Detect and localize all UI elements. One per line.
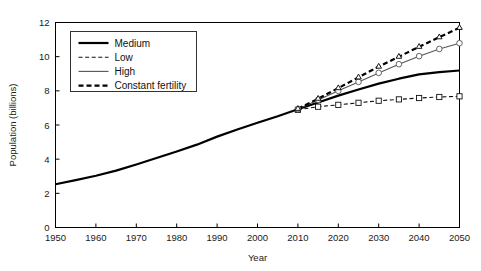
chart-legend: MediumLowHighConstant fertility [71,32,197,92]
legend-label-low: Low [115,52,134,63]
data-point-marker [336,85,342,90]
x-axis-title: Year [248,252,267,263]
y-tick-label: 8 [44,85,49,96]
data-point-marker [316,104,321,109]
marker-layer [295,25,462,113]
data-point-marker [396,61,402,67]
data-point-marker [336,102,341,107]
y-tick-label: 6 [44,120,49,131]
data-point-marker [376,63,382,68]
x-tick-label: 1980 [166,232,187,243]
data-point-marker [437,46,443,52]
x-axis-ticks [56,224,460,228]
data-point-marker [457,40,463,46]
data-point-marker [356,74,362,79]
x-tick-label: 2030 [368,232,389,243]
y-axis-title: Population (billions) [7,84,18,167]
population-projection-chart: 1950196019701980199020002010202020302040… [0,0,481,271]
data-point-marker [457,94,462,99]
x-tick-label: 2040 [409,232,430,243]
y-tick-label: 0 [44,222,49,233]
x-tick-label: 1990 [207,232,228,243]
x-tick-label: 2020 [328,232,349,243]
data-point-marker [356,79,362,85]
data-point-marker [417,95,422,100]
data-point-marker [376,70,382,76]
chart-canvas: 1950196019701980199020002010202020302040… [0,0,481,271]
data-point-marker [396,97,401,102]
x-tick-label: 2050 [449,232,470,243]
x-tick-label: 1950 [45,232,66,243]
x-tick-label: 2000 [247,232,268,243]
legend-label-constant-fertility: Constant fertility [115,80,187,91]
x-tick-label: 1970 [126,232,147,243]
y-tick-label: 12 [39,17,50,28]
data-point-marker [416,53,422,59]
y-axis-tick-labels: 024681012 [39,17,50,233]
y-axis-ticks [56,23,60,228]
data-point-marker [376,98,381,103]
y-tick-label: 2 [44,188,49,199]
data-point-marker [356,100,361,105]
y-tick-label: 4 [44,154,49,165]
y-tick-label: 10 [39,51,50,62]
x-axis-tick-labels: 1950196019701980199020002010202020302040… [45,232,470,243]
data-point-marker [457,25,463,30]
x-tick-label: 2010 [287,232,308,243]
data-point-marker [437,94,442,99]
legend-label-high: High [115,66,136,77]
x-tick-label: 1960 [85,232,106,243]
legend-label-medium: Medium [115,38,151,49]
